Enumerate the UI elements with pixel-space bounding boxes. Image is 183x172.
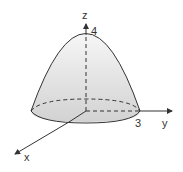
- apex-value-label: 4: [91, 25, 97, 37]
- x-axis: [15, 122, 69, 154]
- radius-value-label: 3: [135, 117, 141, 129]
- x-axis-label: x: [24, 151, 30, 163]
- y-axis-label: y: [162, 117, 168, 129]
- paraboloid-diagram: z 4 3 y x: [0, 0, 183, 172]
- z-axis-label: z: [82, 9, 88, 21]
